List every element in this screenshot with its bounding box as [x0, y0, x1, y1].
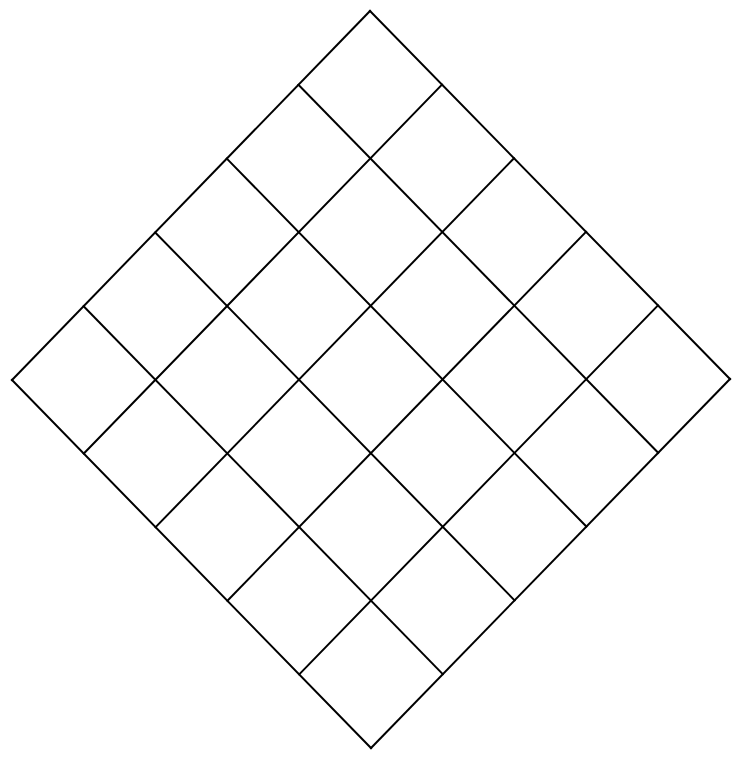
grid-line — [227, 232, 586, 601]
grid-line — [227, 159, 587, 527]
grid-line — [299, 305, 658, 674]
grid-lines — [12, 11, 730, 748]
outer-edge — [12, 11, 370, 380]
outer-edge — [12, 380, 371, 748]
grid-line — [84, 306, 443, 674]
diamond-grid-diagram — [0, 0, 745, 757]
grid-line — [155, 232, 514, 600]
outer-edge — [370, 11, 730, 379]
grid-line — [84, 85, 442, 454]
outer-edge — [371, 379, 730, 748]
grid-line — [298, 85, 658, 453]
grid-line — [156, 158, 514, 527]
